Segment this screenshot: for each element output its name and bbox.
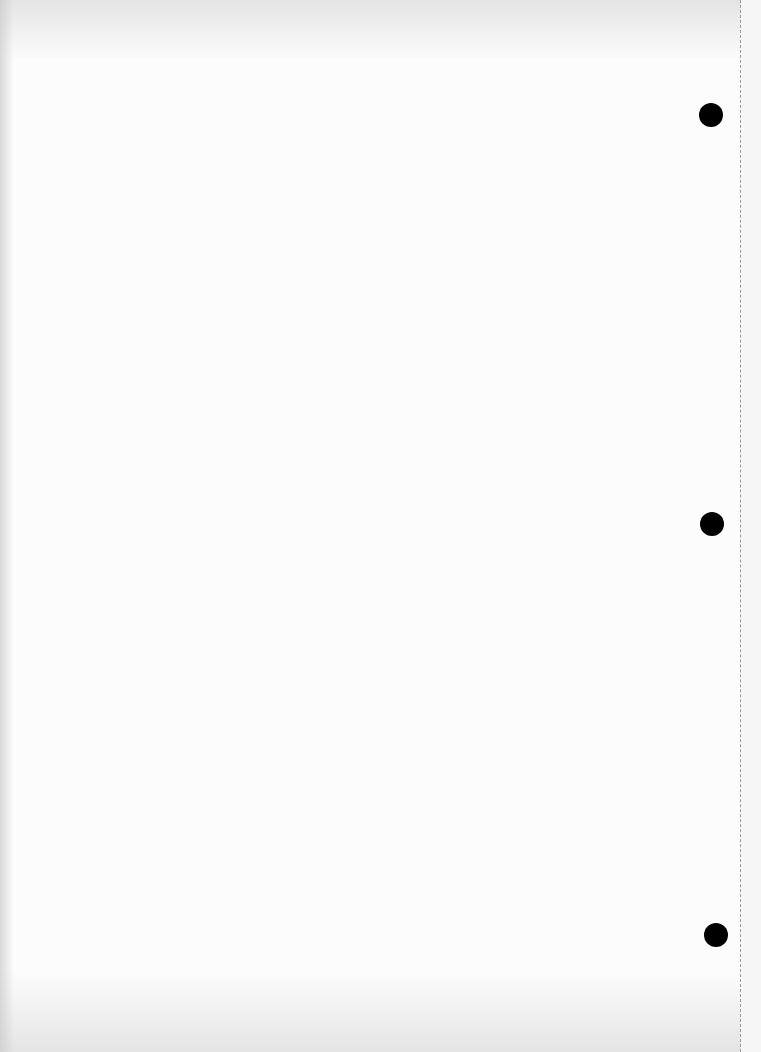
punch-hole-top: [699, 103, 723, 127]
perforation-line: [740, 0, 741, 1052]
punch-hole-middle: [700, 512, 724, 536]
blank-page: [0, 0, 761, 1052]
punch-hole-bottom: [704, 923, 728, 947]
tear-off-margin: [741, 0, 761, 1052]
